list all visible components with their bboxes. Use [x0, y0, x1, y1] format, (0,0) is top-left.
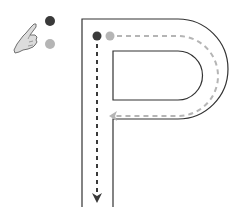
hand-pointer-icon	[14, 24, 37, 53]
diagram-svg	[0, 0, 238, 207]
stroke-2-legend-dot	[45, 39, 55, 49]
stroke-1-legend-dot	[45, 16, 55, 26]
stroke-2-start-dot	[106, 32, 115, 41]
letter-tracing-diagram: P	[0, 0, 238, 207]
letter-p-counter	[113, 51, 203, 100]
stroke-1-arrowhead	[92, 193, 102, 203]
stroke-1-start-dot	[93, 32, 102, 41]
